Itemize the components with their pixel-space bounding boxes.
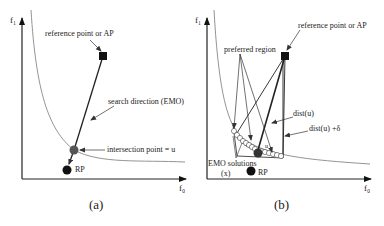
u-point-marker-b xyxy=(254,149,263,158)
pointer-dist-u xyxy=(272,117,293,123)
pointer-search-a xyxy=(91,106,114,120)
preferred-region-label: preferred region xyxy=(224,46,276,54)
search-direction-line-b xyxy=(258,56,285,150)
intersection-point-marker-a xyxy=(70,146,79,155)
dist-u-delta-label: dist(u) +δ xyxy=(309,125,340,133)
pointer-preferred-3 xyxy=(240,54,272,152)
dist-u-label: dist(u) xyxy=(293,110,314,118)
caption-b: (b) xyxy=(274,198,289,211)
reference-point-marker-b xyxy=(281,52,289,60)
u-label-b: u xyxy=(265,143,268,149)
caption-a: (a) xyxy=(89,198,103,211)
search-direction-line-a xyxy=(74,56,103,150)
intersection-label-a: intersection point = u xyxy=(107,146,175,154)
x-axis-label-a: f₀ xyxy=(179,184,185,193)
rp-label-a: RP xyxy=(75,166,85,174)
pointer-preferred-1 xyxy=(234,54,240,128)
reference-point-label-a: reference point or AP xyxy=(45,30,114,38)
search-direction-label-a: search direction (EMO) xyxy=(108,98,184,106)
rp-marker-a xyxy=(63,166,72,175)
pointer-dist-u-delta xyxy=(285,131,308,136)
rp-label-b: RP xyxy=(258,169,268,177)
emo-solutions-label: EMO solutions xyxy=(208,160,257,168)
pointer-preferred-2 xyxy=(240,54,251,140)
x-axis-label-b: f₀ xyxy=(364,184,370,193)
pointer-reference-b xyxy=(287,30,300,50)
reference-point-marker-a xyxy=(99,52,107,60)
y-axis-label-a: f₁ xyxy=(10,16,16,25)
pointer-reference-a xyxy=(90,40,101,51)
y-axis-label-b: f₁ xyxy=(195,16,201,25)
panel-b xyxy=(207,10,371,179)
reference-point-label-b: reference point or AP xyxy=(298,22,367,30)
emo-x-label: (x) xyxy=(221,170,230,178)
